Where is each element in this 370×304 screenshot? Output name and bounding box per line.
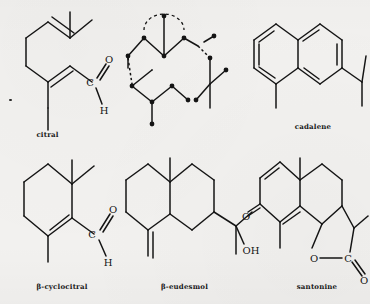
structure-isoprene-units: [118, 8, 243, 128]
atom-label-c-lactone: C: [344, 253, 352, 264]
beta-eudesmol-diagram: OH: [118, 156, 253, 282]
santonine-atom-labels: O O C O: [242, 211, 368, 286]
structure-cadalene: cadalene: [248, 10, 366, 140]
atom-label-o-ester: O: [310, 253, 318, 264]
cadalene-diagram: [248, 10, 366, 130]
caption-beta-eudesmol: β-eudesmol: [117, 282, 252, 291]
isoprene-units-diagram: [118, 8, 243, 126]
structure-santonine: O O C O santonine: [250, 156, 368, 292]
beta-cyclocitral-atom-labels: C O H: [88, 204, 117, 268]
caption-santonine: santonine: [258, 282, 370, 291]
caption-beta-cyclocitral: β-cyclocitral: [6, 282, 118, 291]
beta-cyclocitral-diagram: C O H: [14, 158, 126, 280]
beta-cyclocitral-bonds: [24, 160, 113, 262]
structure-citral: C O H citral: [8, 8, 123, 140]
atom-label-o: O: [109, 204, 117, 215]
atom-label-c: C: [86, 77, 94, 88]
atom-label-o: O: [105, 54, 113, 65]
santonine-diagram: O O C O: [250, 156, 368, 284]
atom-label-h: H: [100, 105, 109, 116]
caption-cadalene: cadalene: [254, 122, 370, 131]
cadalene-bonds: [254, 24, 366, 108]
structure-plate: C O H citral: [0, 0, 370, 304]
beta-eudesmol-bonds: [126, 158, 252, 258]
citral-diagram: C O H: [8, 8, 123, 130]
structure-beta-cyclocitral: C O H β-cyclocitral: [14, 158, 126, 290]
atom-label-h: H: [104, 257, 113, 268]
isoprene-solid-bonds: [128, 16, 226, 124]
citral-bonds: [26, 12, 109, 130]
atom-label-c: C: [88, 229, 96, 240]
atom-label-o-ketone: O: [242, 211, 250, 222]
structure-beta-eudesmol: OH β-eudesmol: [118, 156, 253, 290]
isoprene-vertex-dots: [126, 14, 229, 127]
caption-citral: citral: [0, 130, 105, 139]
citral-atom-labels: C O H: [86, 54, 113, 116]
